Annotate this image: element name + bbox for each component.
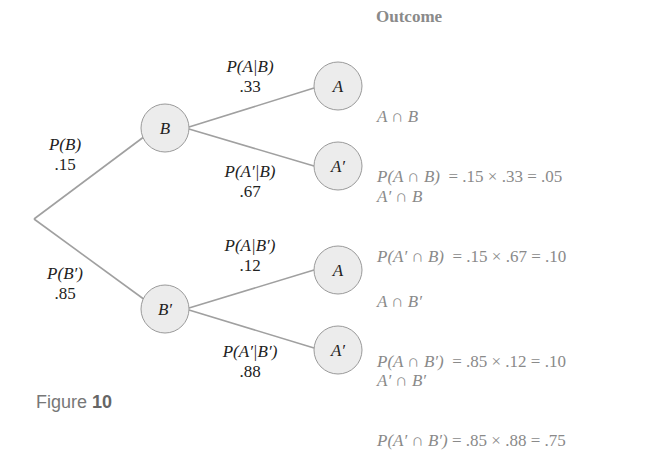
branch-label-Ap-given-B: P(A′|B) .67 [205,162,295,202]
branch-label-Bp: P(B′) .85 [30,264,100,304]
prob-value: .88 [200,362,300,382]
figure-number: 10 [92,392,112,412]
outcome-prob-expr: P(A′ ∩ B′) [377,431,448,450]
prob-value: .67 [205,182,295,202]
prob-label: P(B) [30,135,100,155]
prob-value: .85 [30,284,100,304]
outcome-calc: = .85 × .88 = .75 [448,431,566,450]
node-A-bottom-label: A [332,261,344,280]
outcome-event: A ∩ B [377,107,562,127]
prob-label: P(A′|B) [205,162,295,182]
branch-label-A-given-Bp: P(A|B′) .12 [205,236,295,276]
figure-label: Figure [36,392,87,412]
node-Ap-top-label: A′ [330,157,345,176]
node-B-label: B [160,119,171,138]
branch-label-B: P(B) .15 [30,135,100,175]
outcome-header: Outcome [376,7,442,27]
prob-label: P(B′) [30,264,100,284]
node-Ap-bottom-label: A′ [330,341,345,360]
node-A-top-label: A [332,77,344,96]
outcome-event: A′ ∩ B [377,187,566,207]
prob-label: P(A|B′) [205,236,295,256]
prob-value: .33 [205,77,295,97]
outcome-row: A′ ∩ B′ P(A′ ∩ B′) = .85 × .88 = .75 [377,331,566,454]
prob-label: P(A′|B′) [200,342,300,362]
branch-label-A-given-B: P(A|B) .33 [205,57,295,97]
branch-B-Ap [189,129,314,166]
node-Bp-label: B′ [158,300,172,319]
outcome-event: A′ ∩ B′ [377,371,566,391]
branch-label-Ap-given-Bp: P(A′|B′) .88 [200,342,300,382]
outcome-event: A ∩ B′ [377,292,566,312]
prob-label: P(A|B) [205,57,295,77]
prob-value: .15 [30,155,100,175]
figure-caption: Figure 10 [36,392,112,413]
prob-value: .12 [205,256,295,276]
